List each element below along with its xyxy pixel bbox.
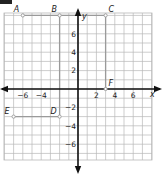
y-axis-up-arrow-icon — [75, 8, 81, 16]
point-B — [58, 14, 61, 17]
x-tick-label: 4 — [112, 91, 117, 100]
point-label-C: C — [109, 5, 115, 14]
point-D — [58, 115, 61, 118]
x-tick-label: 2 — [94, 91, 99, 100]
y-tick-label: −4 — [65, 122, 76, 131]
x-tick-label: 6 — [131, 91, 136, 100]
point-C — [104, 14, 107, 17]
y-axis-down-arrow-icon — [75, 166, 81, 174]
coordinate-plane: xy−6−4246642−2−4−6ABCDEF — [0, 0, 165, 178]
point-F — [104, 87, 107, 90]
point-A — [21, 14, 24, 17]
x-axis-label: x — [149, 90, 155, 99]
y-tick-label: 6 — [71, 30, 76, 39]
y-tick-label: 4 — [71, 48, 76, 57]
point-label-F: F — [109, 79, 114, 88]
point-label-A: A — [13, 5, 19, 14]
y-tick-label: −6 — [65, 140, 76, 149]
y-axis-label: y — [81, 12, 87, 21]
x-tick-label: −6 — [17, 91, 28, 100]
x-tick-label: −4 — [36, 91, 47, 100]
y-tick-label: −2 — [65, 103, 76, 112]
point-E — [12, 115, 15, 118]
x-axis-right-arrow-icon — [154, 86, 162, 92]
point-label-D: D — [51, 107, 57, 116]
y-tick-label: 2 — [71, 66, 76, 75]
point-label-B: B — [52, 5, 58, 14]
